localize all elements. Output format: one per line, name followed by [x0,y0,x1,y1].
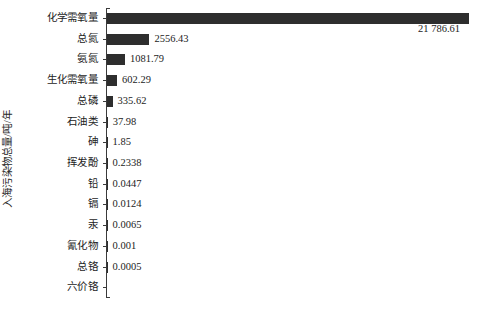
bar [107,75,117,86]
bar-value-label: 0.0124 [113,197,142,211]
category-label: 总氮 [0,32,98,46]
category-label: 生化需氧量 [0,73,98,87]
chart-row: 1081.79 [106,49,492,71]
chart-row: 2556.43 [106,29,492,51]
chart-row: 1.85 [106,132,492,154]
bar [107,54,125,65]
bar [107,241,108,252]
bar [107,158,108,169]
bar-value-label: 1.85 [113,135,131,149]
category-label: 石油类 [0,115,98,129]
bar-value-label: 0.001 [113,239,137,253]
category-label: 六价铬 [0,280,98,294]
category-label: 氨氮 [0,52,98,66]
bar [107,262,108,273]
bar-value-label: 0.2338 [113,156,142,170]
bar [107,34,149,45]
category-label: 砷 [0,135,98,149]
category-label: 总磷 [0,94,98,108]
bar [107,179,108,190]
chart-row: 21 786.61 [106,8,492,30]
bar-chart: 入海污染物总量/吨/年 21 786.612556.431081.79602.2… [0,0,496,318]
bar [107,199,108,210]
chart-row: 602.29 [106,70,492,92]
bar-value-label: 335.62 [118,94,147,108]
chart-row: 0.0065 [106,215,492,237]
chart-row: 0.0124 [106,194,492,216]
bar [107,137,108,148]
bar [107,220,108,231]
bar-value-label: 37.98 [113,115,137,129]
chart-row: 335.62 [106,91,492,113]
category-label: 挥发酚 [0,156,98,170]
bar-value-label: 0.0065 [113,218,142,232]
chart-row: 0.2338 [106,153,492,175]
bar-value-label: 2556.43 [154,32,188,46]
bar-value-label: 0.0005 [113,260,142,274]
bar-value-label: 0.0447 [113,177,142,191]
bar-value-label: 602.29 [122,73,151,87]
bar [107,96,113,107]
chart-row: 0.0447 [106,174,492,196]
bar-value-label: 1081.79 [130,52,164,66]
chart-row: 0.001 [106,236,492,258]
chart-row [106,277,492,299]
category-label: 氰化物 [0,239,98,253]
plot-area: 21 786.612556.431081.79602.29335.6237.98… [106,8,492,298]
bar [107,13,469,24]
category-label: 镉 [0,197,98,211]
axis-tick [103,287,107,288]
category-label: 化学需氧量 [0,11,98,25]
category-label: 汞 [0,218,98,232]
chart-row: 0.0005 [106,257,492,279]
bar [107,117,108,128]
chart-row: 37.98 [106,112,492,134]
category-label: 铅 [0,177,98,191]
category-label: 总铬 [0,260,98,274]
